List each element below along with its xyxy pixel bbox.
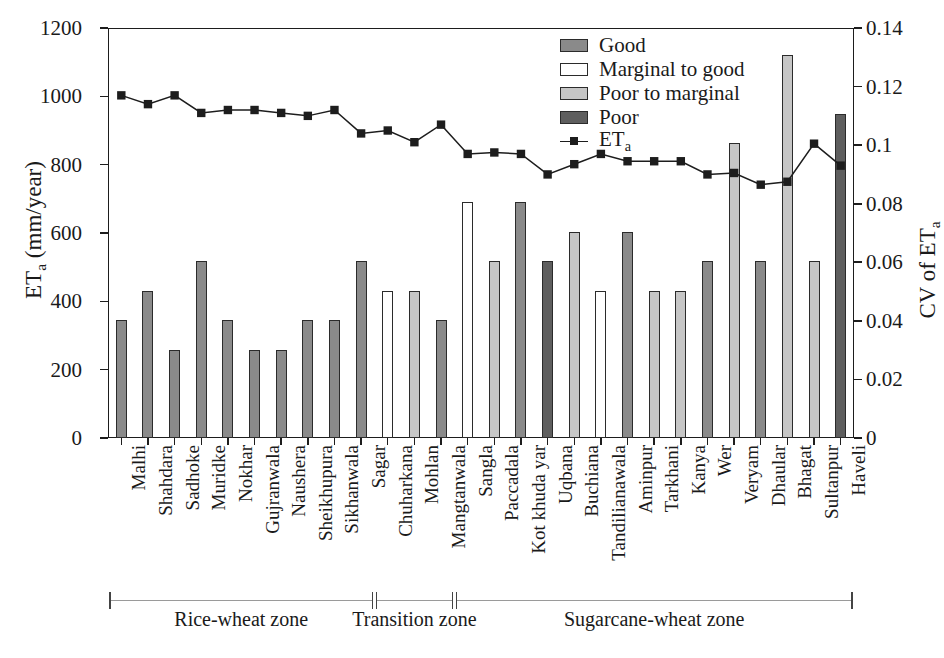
legend-swatch-icon xyxy=(560,87,588,100)
y-axis-left-tick-label: 1200 xyxy=(40,18,82,39)
y-axis-left-tick xyxy=(100,27,108,29)
bar-haveli xyxy=(835,114,846,438)
legend-label: Poor to marginal xyxy=(599,83,740,104)
x-axis-tick xyxy=(227,438,228,445)
y-axis-left-tick-label: 800 xyxy=(51,154,83,175)
bar-kot-khuda-yar xyxy=(515,202,526,438)
y-axis-right-tick-label: 0.12 xyxy=(866,76,903,97)
zone-bracket-tick xyxy=(851,592,852,609)
bar-bhagat xyxy=(782,55,793,438)
y-axis-right-tick-label: 0.04 xyxy=(866,310,903,331)
zone-bracket-tick xyxy=(376,592,377,609)
bar-sadhoke xyxy=(169,350,180,438)
x-axis-label-mangtanwala: Mangtanwala xyxy=(448,445,470,548)
x-axis-tick xyxy=(787,438,788,445)
legend-label: Marginal to good xyxy=(599,59,744,80)
bar-malhi xyxy=(116,320,127,438)
x-axis-label-naushera: Naushera xyxy=(288,445,310,517)
x-axis-label-veryam: Veryam xyxy=(741,445,763,504)
legend-label: Good xyxy=(599,35,646,56)
bar-veryam xyxy=(729,143,740,438)
y-axis-right-tick xyxy=(854,261,862,263)
bar-nokhar xyxy=(222,320,233,438)
bar-gujranwala xyxy=(249,350,260,438)
x-axis-label-tandilianawala: Tandilianawala xyxy=(608,445,630,561)
x-axis-label-shahdara: Shahdara xyxy=(155,445,177,516)
legend-swatch-icon xyxy=(560,39,588,52)
x-axis-label-kanya: Kanya xyxy=(688,445,710,495)
y-axis-right-title-sub: a xyxy=(926,221,943,228)
x-axis-label-buchiana: Buchiana xyxy=(581,445,603,517)
zone-label-sugarcane-wheat-zone: Sugarcane-wheat zone xyxy=(564,608,744,631)
zone-bracket-line xyxy=(110,600,372,601)
legend-item-good: Good xyxy=(560,34,744,56)
y-axis-left-tick-label: 600 xyxy=(51,223,83,244)
bar-kanya xyxy=(675,291,686,438)
bar-aminpur xyxy=(622,232,633,438)
legend-label: ETa xyxy=(599,129,631,153)
legend-label: Poor xyxy=(599,107,639,128)
x-axis-label-sadhoke: Sadhoke xyxy=(182,445,204,510)
x-axis-tick xyxy=(440,438,441,445)
legend-swatch-icon xyxy=(560,111,588,124)
bar-sagar xyxy=(356,261,367,438)
y-axis-right-tick xyxy=(854,437,862,439)
legend-item-marginal-to-good: Marginal to good xyxy=(560,58,744,80)
x-axis-label-sultanpur: Sultanpur xyxy=(821,445,843,519)
x-axis-label-tarkhani: Tarkhani xyxy=(661,445,683,512)
zone-label-rice-wheat-zone: Rice-wheat zone xyxy=(174,608,308,631)
y-axis-right-tick xyxy=(854,144,862,146)
chart-figure: 020040060080010001200 00.020.040.060.080… xyxy=(0,0,944,658)
x-axis-tick xyxy=(760,438,761,445)
bar-sangla xyxy=(462,202,473,438)
x-axis-label-muridke: Muridke xyxy=(208,445,230,510)
x-axis-label-sangla: Sangla xyxy=(475,445,497,497)
y-axis-right-tick xyxy=(854,27,862,29)
x-axis-label-sagar: Sagar xyxy=(368,445,390,488)
bar-paccadala xyxy=(489,261,500,438)
y-axis-left-tick xyxy=(100,164,108,166)
y-axis-right-tick-label: 0.06 xyxy=(866,252,903,273)
x-axis-tick xyxy=(574,438,575,445)
zone-bracket-tick xyxy=(109,592,110,609)
y-axis-right-tick xyxy=(854,320,862,322)
y-axis-left-title-sub: a xyxy=(32,264,49,271)
bar-uqbana xyxy=(542,261,553,438)
x-axis-tick xyxy=(520,438,521,445)
zone-bracket-tick xyxy=(372,592,373,609)
bar-mangtanwala xyxy=(436,320,447,438)
x-axis-label-aminpur: Aminpur xyxy=(635,445,657,514)
y-axis-left-tick xyxy=(100,437,108,439)
y-axis-left-title-unit: (mm/year) xyxy=(21,161,46,264)
bar-muridke xyxy=(196,261,207,438)
zone-bracket-tick xyxy=(456,592,457,609)
legend-item-poor: Poor xyxy=(560,106,744,128)
x-axis-tick xyxy=(254,438,255,445)
x-axis-label-uqbana: Uqbana xyxy=(555,445,577,504)
bar-tarkhani xyxy=(649,291,660,438)
y-axis-left-tick xyxy=(100,301,108,303)
legend-item-et: ETa xyxy=(560,130,744,152)
x-axis-label-malhi: Malhi xyxy=(128,445,150,490)
x-axis-label-dhaular: Dhaular xyxy=(768,445,790,506)
x-axis-label-nokhar: Nokhar xyxy=(235,445,257,502)
zone-bracket-tick xyxy=(452,592,453,609)
zone-label-transition-zone: Transition zone xyxy=(352,608,476,631)
y-axis-right-tick-label: 0.1 xyxy=(866,135,892,156)
x-axis-labels: MalhiShahdaraSadhokeMuridkeNokharGujranw… xyxy=(0,445,944,595)
bar-buchiana xyxy=(569,232,580,438)
y-axis-right-title: CV of ETa xyxy=(912,150,944,390)
y-axis-left-tick xyxy=(100,96,108,98)
legend-item-poor-to-marginal: Poor to marginal xyxy=(560,82,744,104)
x-axis-tick xyxy=(147,438,148,445)
x-axis-tick xyxy=(334,438,335,445)
bar-shahdara xyxy=(142,291,153,438)
x-axis-label-haveli: Haveli xyxy=(848,445,870,496)
legend-line-marker-icon xyxy=(560,135,588,148)
x-axis-label-kot-khuda-yar: Kot khuda yar xyxy=(528,445,550,554)
legend-swatch-icon xyxy=(560,63,588,76)
x-axis-tick xyxy=(733,438,734,445)
y-axis-right-tick xyxy=(854,86,862,88)
y-axis-right-tick-label: 0.08 xyxy=(866,193,903,214)
bar-chuharkana xyxy=(382,291,393,438)
